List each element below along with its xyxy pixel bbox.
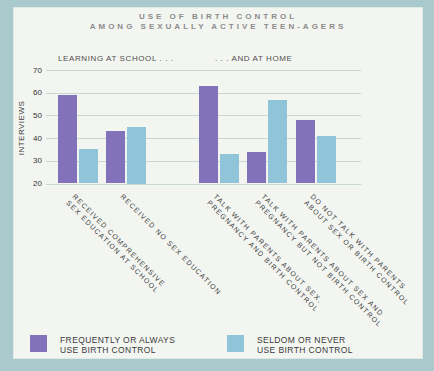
legend: FREQUENTLY OR ALWAYS USE BIRTH CONTROL S…	[13, 335, 423, 361]
y-tick-label-40: 40	[14, 134, 42, 143]
bar-seldom-1	[127, 127, 146, 184]
gridline-20	[46, 184, 361, 185]
y-tick-label-60: 60	[14, 88, 42, 97]
bar-frequently-0	[58, 95, 77, 184]
legend-item-frequently: FREQUENTLY OR ALWAYS USE BIRTH CONTROL	[30, 335, 175, 355]
y-tick-label-20: 20	[14, 179, 42, 188]
y-tick-label-70: 70	[14, 66, 42, 75]
chart-panel: USE OF BIRTH CONTROL AMONG SEXUALLY ACTI…	[13, 7, 423, 359]
bar-frequently-2	[199, 86, 218, 184]
bar-seldom-0	[79, 149, 98, 183]
page-background: USE OF BIRTH CONTROL AMONG SEXUALLY ACTI…	[0, 0, 434, 371]
bar-seldom-2	[220, 154, 239, 184]
bar-frequently-3	[247, 152, 266, 184]
bar-frequently-1	[106, 131, 125, 183]
section-label-school: LEARNING AT SCHOOL . . .	[58, 54, 174, 63]
chart-title-line1: USE OF BIRTH CONTROL	[13, 12, 423, 22]
legend-item-seldom: SELDOM OR NEVER USE BIRTH CONTROL	[227, 335, 353, 355]
y-tick-label-50: 50	[14, 111, 42, 120]
bar-frequently-4	[296, 120, 315, 184]
legend-label-frequently: FREQUENTLY OR ALWAYS USE BIRTH CONTROL	[60, 335, 175, 355]
y-axis-label: INTERVIEWS	[17, 101, 26, 156]
legend-swatch-frequently-icon	[30, 335, 47, 352]
bar-seldom-3	[268, 100, 287, 184]
y-tick-label-30: 30	[14, 156, 42, 165]
legend-label-seldom: SELDOM OR NEVER USE BIRTH CONTROL	[257, 335, 353, 355]
chart-title-line2: AMONG SEXUALLY ACTIVE TEEN-AGERS	[13, 22, 423, 32]
legend-swatch-seldom-icon	[227, 335, 244, 352]
gridline-70	[46, 70, 361, 71]
section-label-home: . . . AND AT HOME	[215, 54, 292, 63]
bar-seldom-4	[317, 136, 336, 184]
chart-title: USE OF BIRTH CONTROL AMONG SEXUALLY ACTI…	[13, 12, 423, 32]
category-label-0: RECEIVED COMPREHENSIVESEX EDUCATION AT S…	[64, 192, 167, 295]
